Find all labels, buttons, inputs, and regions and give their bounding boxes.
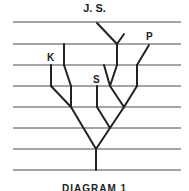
diagram-caption: DIAGRAM 1 bbox=[0, 183, 189, 191]
label-k: K bbox=[47, 52, 54, 63]
phylogenetic-tree-diagram bbox=[0, 0, 189, 191]
tree-branches bbox=[51, 23, 149, 170]
label-s: S bbox=[93, 74, 100, 85]
label-p: P bbox=[146, 31, 153, 42]
